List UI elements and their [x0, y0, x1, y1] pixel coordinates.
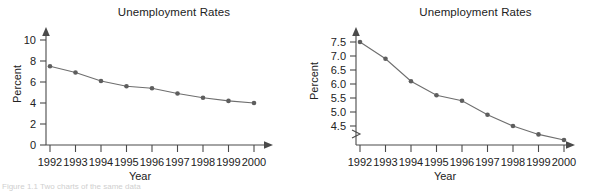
y-tick-label: 5.5 [331, 92, 346, 104]
x-tick-label: 1996 [450, 156, 474, 168]
chart-title-left: Unemployment Rates [24, 6, 324, 18]
data-point [99, 79, 104, 84]
y-tick-label: 6 [30, 76, 36, 88]
data-point [252, 101, 257, 106]
figure-caption: Figure 1.1 Two charts of the same data [2, 184, 141, 191]
y-axis-arrow-left [42, 27, 50, 36]
series-markers-left [48, 64, 257, 105]
x-tick-label: 1999 [216, 156, 240, 168]
y-ticks-right: 4.5 5.0 5.5 6.0 6.5 7.0 7.5 [331, 36, 356, 132]
data-point [175, 91, 180, 96]
y-tick-label: 4.5 [331, 120, 346, 132]
x-tick-label: 1998 [501, 156, 525, 168]
x-tick-label: 1994 [399, 156, 423, 168]
data-point [358, 40, 363, 45]
data-point [73, 70, 78, 75]
data-point [226, 99, 231, 104]
y-tick-label: 6.5 [331, 64, 346, 76]
data-point [511, 124, 516, 129]
figure-container: Unemployment Rates Percent Year 0 2 4 6 [0, 0, 603, 195]
plot-area-right: 4.5 5.0 5.5 6.0 6.5 7.0 7.5 [322, 22, 603, 187]
plot-area-left: 0 2 4 6 8 10 1992 1993 [20, 22, 300, 187]
y-tick-label: 10 [24, 34, 36, 46]
y-tick-label: 0 [30, 139, 36, 151]
series-line-left [50, 66, 254, 103]
data-point [434, 93, 439, 98]
y-tick-label: 7.0 [331, 50, 346, 62]
chart-title-right: Unemployment Rates [324, 6, 603, 18]
data-point [409, 79, 414, 84]
x-tick-label: 1995 [424, 156, 448, 168]
x-tick-label: 1993 [373, 156, 397, 168]
figure-caption-strip: Figure 1.1 Two charts of the same data [0, 184, 603, 195]
series-markers-right [358, 40, 567, 143]
data-point [48, 64, 53, 69]
x-tick-label: 1993 [63, 156, 87, 168]
y-tick-label: 5.0 [331, 106, 346, 118]
x-tick-labels-left: 1992 1993 1994 1995 1996 1997 1998 1999 … [38, 156, 266, 168]
x-axis-arrow-right [566, 141, 575, 149]
x-tick-label: 1992 [348, 156, 372, 168]
data-point [124, 84, 129, 89]
x-tick-label: 1997 [165, 156, 189, 168]
x-tick-label: 1994 [89, 156, 113, 168]
x-tick-label: 1997 [475, 156, 499, 168]
x-tick-label: 1996 [140, 156, 164, 168]
data-point [562, 138, 567, 143]
x-axis-arrow-left [264, 141, 273, 149]
x-tick-labels-right: 1992 1993 1994 1995 1996 1997 1998 1999 … [348, 156, 576, 168]
data-point [536, 132, 541, 137]
y-tick-label: 6.0 [331, 78, 346, 90]
y-tick-label: 8 [30, 55, 36, 67]
x-tick-label: 2000 [242, 156, 266, 168]
x-tick-label: 1995 [114, 156, 138, 168]
y-axis-label-right: Percent [308, 51, 320, 111]
x-ticks-right [360, 145, 564, 152]
chart-panel-right: Unemployment Rates Percent Year 4.5 [300, 0, 603, 195]
x-tick-label: 2000 [552, 156, 576, 168]
chart-panel-left: Unemployment Rates Percent Year 0 2 4 6 [0, 0, 300, 195]
y-tick-label: 7.5 [331, 36, 346, 48]
series-line-right [360, 42, 564, 140]
data-point [485, 113, 490, 118]
x-ticks-left [50, 145, 254, 152]
x-tick-label: 1998 [191, 156, 215, 168]
data-point [150, 86, 155, 91]
data-point [383, 57, 388, 62]
x-tick-label: 1992 [38, 156, 62, 168]
data-point [460, 99, 465, 104]
y-axis-arrow-right [352, 27, 360, 36]
y-ticks-left: 0 2 4 6 8 10 [24, 34, 46, 151]
data-point [201, 96, 206, 101]
x-tick-label: 1999 [526, 156, 550, 168]
y-tick-label: 2 [30, 118, 36, 130]
y-tick-label: 4 [30, 97, 36, 109]
